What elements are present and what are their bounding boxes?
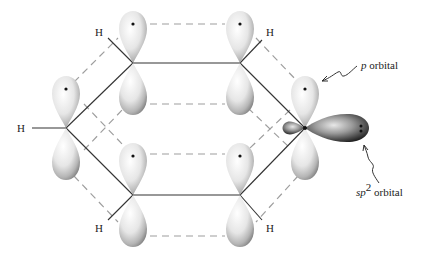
sp2-orbital-callout: sp2 orbital — [356, 145, 403, 198]
sp2-orbital-label: sp2 orbital — [356, 181, 403, 198]
hydrogen-label-bottom-left: H — [95, 222, 103, 234]
benzene-orbital-diagram: H H H H H p orbital sp2 orbital — [0, 0, 423, 258]
hydrogen-label-bottom-right: H — [266, 222, 274, 234]
hydrogen-label-top-left: H — [95, 26, 103, 38]
p-orbital-label: p orbital — [360, 59, 398, 71]
overlap-dashed-lines — [74, 24, 298, 236]
hydrogen-label-left: H — [17, 122, 25, 134]
hydrogen-label-top-right: H — [266, 26, 274, 38]
p-orbital-callout: p orbital — [322, 59, 398, 81]
